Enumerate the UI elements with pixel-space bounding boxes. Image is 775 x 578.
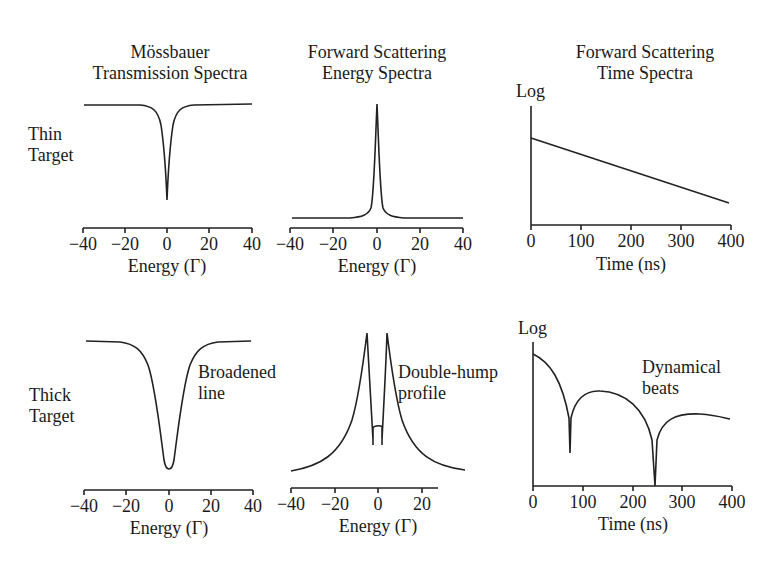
header-line: Time Spectra [545,63,745,84]
thin-mossbauer-x-axis [83,228,252,233]
tick-label: −20 [105,234,145,255]
panel-thin-energy [290,104,463,233]
annotation-line: Dynamical [642,357,721,378]
x-axis-label: Energy (Γ) [99,518,239,539]
thin-time-x-axis [531,225,731,230]
header-line: Energy Spectra [292,63,462,84]
tick-label: 20 [189,234,229,255]
annotation-dynamical-beats: Dynamical beats [642,357,721,399]
tick-label: 0 [358,494,398,515]
header-line: Transmission Spectra [85,63,255,84]
tick-label: −40 [64,496,104,517]
thin-mossbauer-curve [84,104,252,200]
annotation-line: Broadened [198,362,276,383]
tick-label: 100 [561,231,601,252]
column-header-fs-energy: Forward Scattering Energy Spectra [292,42,462,84]
column-header-fs-time: Forward Scattering Time Spectra [545,42,745,84]
tick-label: 200 [613,492,653,513]
tick-label: −20 [106,496,146,517]
tick-label: 300 [662,492,702,513]
x-axis-label: Energy (Γ) [307,256,447,277]
tick-label: 0 [511,231,551,252]
tick-label: 400 [711,231,751,252]
x-axis-label: Energy (Γ) [308,516,448,537]
tick-label: 40 [232,234,272,255]
row-label-thin-target: Thin Target [28,124,73,166]
row-label-thick-target: Thick Target [29,385,74,427]
thin-energy-x-axis [290,228,463,233]
tick-label: −40 [271,494,311,515]
panel-thin-time [531,106,731,230]
tick-label: 20 [191,496,231,517]
log-label-thin: Log [516,81,545,102]
row-label-line: Thin [28,124,73,145]
figure-canvas [0,0,775,578]
tick-label: 40 [233,496,273,517]
x-axis-label: Energy (Γ) [97,256,237,277]
thick-time-x-axis [533,486,732,491]
tick-label: −40 [270,234,310,255]
panel-thin-mossbauer [83,104,252,233]
annotation-line: Double-hump [398,362,498,383]
tick-label: −20 [313,234,353,255]
thin-time-decay-line [531,138,729,203]
tick-label: −40 [63,234,103,255]
tick-label: 0 [513,492,553,513]
tick-label: 200 [611,231,651,252]
row-label-line: Target [29,406,74,427]
annotation-line: line [198,383,276,404]
thin-energy-curve [292,104,463,218]
row-label-line: Thick [29,385,74,406]
tick-label: 40 [443,234,483,255]
tick-label: −20 [315,494,355,515]
row-label-line: Target [28,145,73,166]
tick-label: 20 [400,234,440,255]
header-line: Mössbauer [85,42,255,63]
tick-label: 0 [357,234,397,255]
x-axis-label: Time (ns) [573,514,693,535]
thick-mossbauer-x-axis [84,490,253,495]
annotation-line: beats [642,378,721,399]
annotation-line: profile [398,383,498,404]
thick-mossbauer-curve [86,341,251,469]
annotation-broadened-line: Broadened line [198,362,276,404]
annotation-double-hump: Double-hump profile [398,362,498,404]
tick-label: 0 [147,234,187,255]
tick-label: 100 [563,492,603,513]
panel-thick-energy [291,333,465,493]
x-axis-label: Time (ns) [571,254,691,275]
tick-label: 300 [661,231,701,252]
header-line: Forward Scattering [545,42,745,63]
tick-label: 20 [402,494,442,515]
header-line: Forward Scattering [292,42,462,63]
tick-label: 0 [149,496,189,517]
thick-energy-x-axis [291,488,438,493]
column-header-mossbauer: Mössbauer Transmission Spectra [85,42,255,84]
log-label-thick: Log [518,318,547,339]
tick-label: 400 [712,492,752,513]
